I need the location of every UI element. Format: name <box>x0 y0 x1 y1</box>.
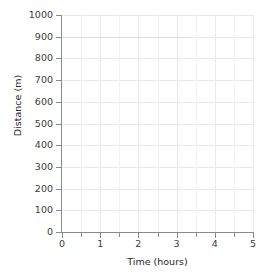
plot-area <box>62 15 253 232</box>
x-axis-tick-labels: 012345 <box>0 238 271 252</box>
gridline-vertical <box>253 15 254 232</box>
x-axis-tick-mark-minor <box>119 233 120 237</box>
gridline-vertical-minor <box>158 15 159 232</box>
gridline-vertical <box>177 15 178 232</box>
gridline-vertical <box>215 15 216 232</box>
y-axis-tick-mark <box>56 102 62 103</box>
y-axis-tick-mark <box>56 145 62 146</box>
residual-trace-line <box>62 37 190 38</box>
x-axis-title: Time (hours) <box>62 256 253 267</box>
x-axis-tick-mark-minor <box>196 233 197 237</box>
gridline-vertical-minor <box>234 15 235 232</box>
x-axis-tick-mark-minor <box>234 233 235 237</box>
x-axis-tick-mark-minor <box>81 233 82 237</box>
x-axis-tick-label: 1 <box>90 238 110 249</box>
x-axis-tick-label: 5 <box>243 238 263 249</box>
x-axis-tick-label: 2 <box>128 238 148 249</box>
x-axis-tick-mark-minor <box>158 233 159 237</box>
y-axis-title: Distance (m) <box>12 56 23 156</box>
y-axis-tick-mark <box>56 189 62 190</box>
y-axis-tick-mark <box>56 167 62 168</box>
y-axis-tick-mark <box>56 15 62 16</box>
gridline-vertical-minor <box>119 15 120 232</box>
y-axis-tick-mark <box>56 80 62 81</box>
y-axis-tick-mark <box>56 124 62 125</box>
y-axis-tick-mark <box>56 37 62 38</box>
gridline-vertical-minor <box>81 15 82 232</box>
x-axis-tick-label: 0 <box>52 238 72 249</box>
gridline-vertical <box>100 15 101 232</box>
gridline-vertical <box>138 15 139 232</box>
x-axis-tick-label: 3 <box>167 238 187 249</box>
y-axis-tick-mark <box>56 58 62 59</box>
y-axis-title-wrapper: Distance (m) <box>0 0 40 260</box>
chart-container: 10009008007006005004003002001000 012345 … <box>0 0 271 280</box>
gridline-vertical-minor <box>196 15 197 232</box>
y-axis-tick-mark <box>56 210 62 211</box>
x-axis-tick-label: 4 <box>205 238 225 249</box>
